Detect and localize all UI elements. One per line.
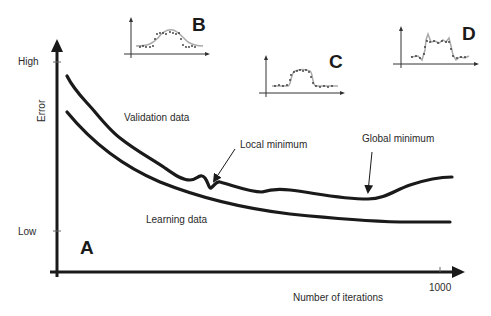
x-axis-arrow-icon — [452, 266, 465, 278]
y-axis — [51, 39, 63, 277]
y-axis-label: Error — [37, 100, 47, 122]
learning-curve — [67, 112, 450, 222]
local-min-arrow — [214, 149, 235, 181]
x-tick-1000-label: 1000 — [429, 283, 451, 293]
panel-label-a: A — [80, 238, 94, 257]
panel-label-b: B — [192, 15, 206, 34]
learning-label: Learning data — [146, 215, 207, 225]
global-min-arrow — [368, 152, 372, 192]
x-axis — [50, 266, 465, 278]
validation-label: Validation data — [124, 113, 189, 123]
global-min-label: Global minimum — [362, 134, 434, 144]
panel-label-d: D — [462, 24, 476, 43]
y-tick-low: Low — [18, 227, 36, 237]
chart-canvas — [0, 0, 491, 316]
x-axis-label: Number of iterations — [293, 293, 383, 303]
local-min-label: Local minimum — [240, 140, 307, 150]
panel-label-c: C — [329, 52, 343, 71]
y-tick-high: High — [18, 57, 39, 67]
y-axis-arrow-icon — [51, 39, 63, 52]
